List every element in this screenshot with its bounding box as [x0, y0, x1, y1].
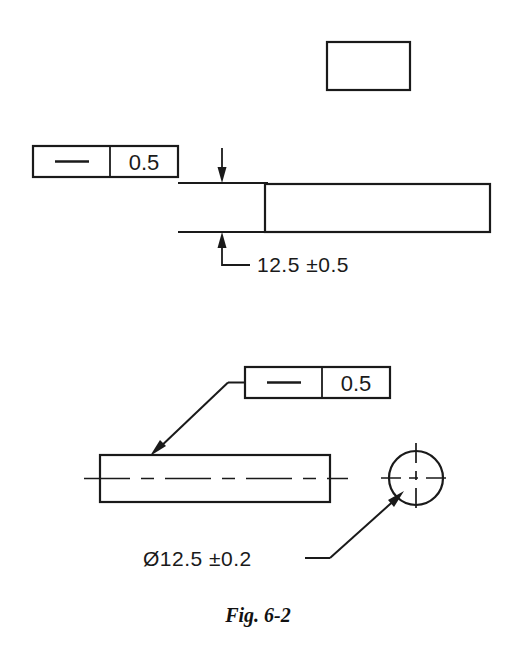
top-blank-rectangle [327, 42, 410, 90]
flat-bar-rectangle [265, 184, 490, 232]
drawing-canvas: 0.5 12.5 ±0.5 0.5 [0, 0, 516, 659]
top-dimension-text: 12.5 ±0.5 [257, 253, 349, 276]
bottom-feature-control-frame: 0.5 [245, 367, 390, 398]
dimension-jog-leader [222, 248, 250, 265]
leader-diagonal [157, 383, 228, 451]
arrowhead-down-icon [218, 167, 227, 183]
arrowhead-up-icon [218, 232, 227, 248]
figure-caption: Fig. 6-2 [224, 604, 291, 627]
diameter-leader-diagonal [330, 497, 398, 558]
bottom-dimension-text: Ø12.5 ±0.2 [143, 547, 252, 570]
top-feature-control-frame: 0.5 [33, 146, 178, 177]
dimension-arrow-bottom [218, 232, 251, 265]
technical-drawing-figure: 0.5 12.5 ±0.5 0.5 [0, 0, 516, 659]
frame-leader-line [150, 383, 245, 457]
top-frame-tolerance-value: 0.5 [129, 150, 160, 175]
cylinder-side-rectangle [100, 455, 330, 502]
dimension-arrow-top [218, 148, 227, 183]
bottom-frame-tolerance-value: 0.5 [341, 371, 372, 396]
